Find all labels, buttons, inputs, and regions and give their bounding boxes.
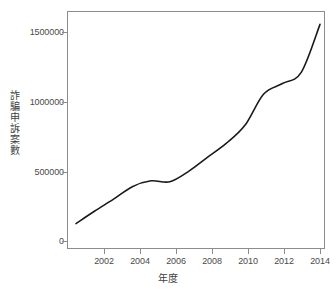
y-tick-label-2: 1000000: [30, 97, 64, 107]
y-axis-title: 詐騙申訴案數: [2, 90, 20, 156]
line-series-layer: [67, 11, 325, 249]
x-tick-mark-4: [248, 249, 249, 254]
x-tick-mark-1: [140, 249, 141, 254]
x-tick-mark-0: [104, 249, 105, 254]
x-tick-label-2: 2006: [166, 256, 186, 266]
x-tick-mark-6: [320, 249, 321, 254]
x-tick-label-0: 2002: [94, 256, 114, 266]
x-tick-label-1: 2004: [130, 256, 150, 266]
chart-figure: 0 500000 1000000 1500000 2002 2004 2006 …: [0, 0, 336, 289]
x-tick-label-5: 2012: [274, 256, 294, 266]
y-tick-label-3: 1500000: [30, 27, 64, 37]
x-tick-mark-5: [284, 249, 285, 254]
x-axis-title: 年度: [0, 270, 336, 285]
x-tick-label-4: 2010: [238, 256, 258, 266]
line-series-path: [76, 24, 320, 223]
x-tick-mark-2: [176, 249, 177, 254]
x-tick-label-3: 2008: [202, 256, 222, 266]
x-tick-label-6: 2014: [310, 256, 330, 266]
x-tick-mark-3: [212, 249, 213, 254]
y-tick-label-1: 500000: [35, 167, 64, 177]
